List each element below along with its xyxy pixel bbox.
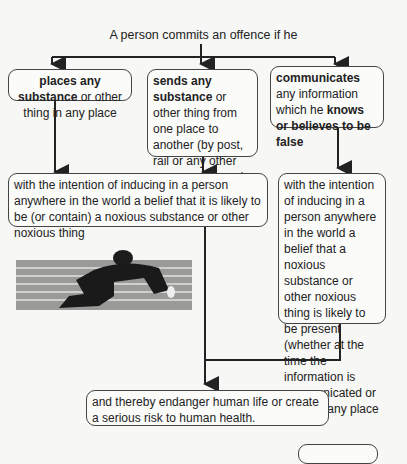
- act-sends-bold: sends any substance: [153, 74, 212, 104]
- act-box-communicates: communicates any information which he kn…: [270, 66, 384, 128]
- act-sends-text: or other thing from one place to another…: [153, 90, 245, 184]
- bottom-right-box-partial: [298, 444, 378, 464]
- act-communicates-bold: communicates: [276, 71, 360, 85]
- act-box-places: places any substance or other thing in a…: [8, 69, 132, 101]
- intent-box-left: with the intention of inducing in a pers…: [8, 173, 268, 227]
- intent-box-right: with the intention of inducing in a pers…: [278, 173, 386, 324]
- act-box-sends: sends any substance or other thing from …: [147, 69, 258, 157]
- man-lying-on-steps-image: [14, 250, 194, 312]
- result-box: and thereby endanger human life or creat…: [86, 390, 329, 426]
